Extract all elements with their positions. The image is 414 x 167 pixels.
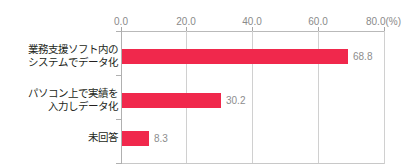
category-label-1-line2: システムでデータ化 xyxy=(28,56,118,69)
gridline-80 xyxy=(384,31,385,164)
category-label-2-line1: パソコン上で実績を xyxy=(28,87,118,100)
category-label-2: パソコン上で実績を 入力しデータ化 xyxy=(28,87,118,113)
bar-1 xyxy=(122,49,348,64)
axis-tick-label-20: 20.0 xyxy=(176,16,195,27)
y-axis-tick-1 xyxy=(116,75,122,76)
axis-tick-label-80-value: 80.0 xyxy=(366,16,385,27)
category-label-3-line1: 未回答 xyxy=(88,131,118,144)
category-label-1-line1: 業務支援ソフト内の xyxy=(28,43,118,56)
bar-value-label-2: 30.2 xyxy=(226,93,245,108)
bar-value-label-1: 68.8 xyxy=(353,49,372,64)
category-label-2-line2: 入力しデータ化 xyxy=(28,100,118,113)
bar-value-label-3: 8.3 xyxy=(154,131,168,146)
axis-tick-label-80: 80.0(%) xyxy=(366,16,401,27)
category-label-1: 業務支援ソフト内の システムでデータ化 xyxy=(28,43,118,69)
y-axis-tick-2 xyxy=(116,119,122,120)
y-axis-tick-bottom xyxy=(116,163,122,164)
axis-tick-label-40: 40.0 xyxy=(242,16,261,27)
axis-tick-label-60: 60.0 xyxy=(308,16,327,27)
bottom-axis-line xyxy=(121,163,384,164)
bar-3 xyxy=(122,131,149,146)
category-label-3: 未回答 xyxy=(88,131,118,144)
y-axis-tick-top xyxy=(116,31,122,32)
axis-unit-label: (%) xyxy=(385,16,401,27)
axis-tick-label-0: 0.0 xyxy=(114,16,128,27)
bar-2 xyxy=(122,93,221,108)
horizontal-bar-chart: 0.0 20.0 40.0 60.0 80.0(%) 業務支援ソフト内の システ… xyxy=(0,0,414,167)
